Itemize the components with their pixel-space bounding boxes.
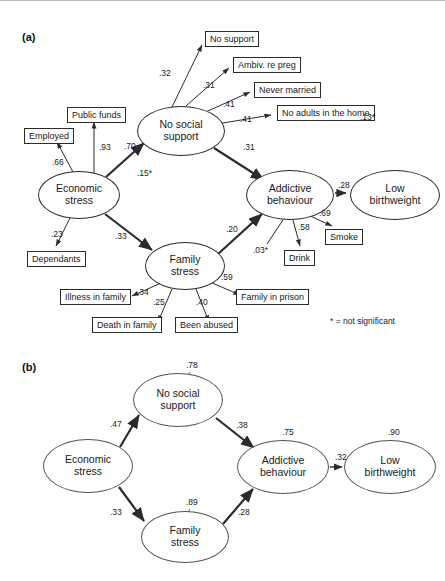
significance-footnote: * = not significant <box>330 316 395 326</box>
latent-economic-stress-b: Economic stress <box>43 439 133 493</box>
latent-label: Family stress <box>170 254 201 278</box>
observed-label: No adults in the home <box>282 108 370 118</box>
coef-nosocial-no-adults: .41 <box>240 114 252 124</box>
coef-family-illness: .34 <box>137 287 149 297</box>
observed-label: Never married <box>259 85 316 95</box>
latent-economic-stress-a: Economic stress <box>38 171 120 219</box>
latent-low-birthweight-a: Low birthweight <box>350 170 440 220</box>
coef-addictive-smoke: .69 <box>319 208 331 218</box>
coef-economic-family: .33 <box>115 231 127 241</box>
coef-b-nosocial-addictive: .38 <box>236 420 248 430</box>
observed-drink: Drink <box>284 250 315 266</box>
observed-illness-in-family: Illness in family <box>60 289 131 305</box>
residual-family-b: .89 <box>186 497 198 507</box>
coef-family-addictive: .20 <box>226 224 238 234</box>
observed-employed: Employed <box>24 128 74 144</box>
latent-family-stress-b: Family stress <box>141 511 229 563</box>
residual-lbw-b: .90 <box>388 427 400 437</box>
observed-label: Illness in family <box>65 292 126 302</box>
observed-dependants: Dependants <box>27 251 86 267</box>
panel-a-label: (a) <box>22 31 35 43</box>
observed-label: Drink <box>289 253 310 263</box>
coef-nosocial-ambiv: .31 <box>203 80 215 90</box>
coef-addictive-drink: .58 <box>298 222 310 232</box>
top-border-rule <box>0 0 445 1</box>
observed-death-in-family: Death in family <box>92 317 162 333</box>
latent-label: Economic stress <box>65 454 111 478</box>
observed-label: Been abused <box>180 320 233 330</box>
observed-label: Public funds <box>72 110 121 120</box>
observed-been-abused: Been abused <box>175 317 238 333</box>
latent-no-social-support-b: No social support <box>133 373 223 427</box>
coef-economic-nosocial: .70 <box>124 141 136 151</box>
coef-family-death: .25 <box>153 297 165 307</box>
observed-no-support: No support <box>205 31 259 47</box>
latent-label: Low birthweight <box>365 455 416 479</box>
latent-label: No social support <box>156 388 199 412</box>
observed-label: Ambiv. re preg <box>238 60 296 70</box>
coef-nosocial-addictive: .31 <box>243 142 255 152</box>
observed-label: Dependants <box>32 254 81 264</box>
coef-family-addictive-ns: .03* <box>253 245 268 255</box>
observed-ambiv-re-preg: Ambiv. re preg <box>233 57 301 73</box>
observed-never-married: Never married <box>254 82 321 98</box>
coef-economic-employed: .66 <box>52 157 64 167</box>
coef-b-family-addictive: .28 <box>238 507 250 517</box>
latent-addictive-behaviour-b: Addictive behaviour <box>237 440 329 494</box>
coef-economic-public-funds: .93 <box>99 142 111 152</box>
coef-family-abused: .40 <box>196 297 208 307</box>
observed-family-in-prison: Family in prison <box>236 289 309 305</box>
latent-label: Economic stress <box>56 183 102 207</box>
coef-economic-dependants: .23 <box>51 229 63 239</box>
latent-label: Addictive behaviour <box>267 183 313 207</box>
sem-path-diagram-figure: (a) (b) Economic stress No social suppor… <box>0 0 445 581</box>
coef-nosocial-never-married: .41 <box>223 99 235 109</box>
coef-b-addictive-lbw: .32 <box>335 452 347 462</box>
latent-label: Family stress <box>170 525 201 549</box>
observed-label: Smoke <box>330 232 358 242</box>
latent-low-birthweight-b: Low birthweight <box>344 440 436 494</box>
latent-family-stress-a: Family stress <box>145 242 225 290</box>
observed-public-funds: Public funds <box>67 107 126 123</box>
observed-smoke: Smoke <box>325 229 363 245</box>
coef-family-prison: .59 <box>221 272 233 282</box>
coef-economic-addictive-ns: .15* <box>137 168 152 178</box>
observed-label: No support <box>210 34 254 44</box>
residual-nosocial-b: .78 <box>186 360 198 370</box>
latent-label: Low birthweight <box>370 183 421 207</box>
latent-no-social-support-a: No social support <box>137 106 225 156</box>
observed-label: Employed <box>29 131 69 141</box>
residual-addictive-b: .75 <box>282 427 294 437</box>
coef-b-economic-family: .33 <box>110 507 122 517</box>
coef-nosocial-no-support: .32 <box>159 68 171 78</box>
coef-nosocial-lbw-ns: .13* <box>360 112 375 122</box>
observed-label: Death in family <box>97 320 157 330</box>
coef-b-economic-nosocial: .47 <box>110 419 122 429</box>
latent-label: Addictive behaviour <box>260 455 306 479</box>
coef-addictive-lbw: .28 <box>338 180 350 190</box>
latent-label: No social support <box>159 119 202 143</box>
observed-label: Family in prison <box>241 292 304 302</box>
panel-b-label: (b) <box>22 361 36 373</box>
